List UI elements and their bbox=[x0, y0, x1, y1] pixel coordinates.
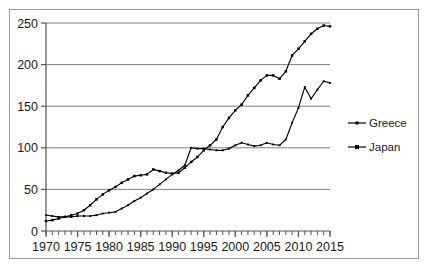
y-tick-label: 0 bbox=[31, 225, 38, 239]
data-point-japan bbox=[139, 174, 142, 177]
data-point-japan bbox=[51, 219, 54, 222]
data-point-greece bbox=[152, 188, 154, 190]
data-point-greece bbox=[146, 193, 148, 195]
data-point-japan bbox=[184, 167, 187, 170]
data-point-japan bbox=[329, 25, 332, 28]
data-point-japan bbox=[171, 172, 174, 175]
data-point-japan bbox=[285, 70, 288, 73]
data-point-japan bbox=[158, 170, 161, 173]
data-point-greece bbox=[209, 149, 211, 151]
data-point-greece bbox=[96, 214, 98, 216]
chart-canvas: 0501001502002501970197519801985199019952… bbox=[0, 0, 430, 279]
data-point-japan bbox=[146, 173, 149, 176]
legend-label-japan: Japan bbox=[369, 141, 400, 153]
data-point-greece bbox=[140, 197, 142, 199]
data-point-greece bbox=[323, 80, 325, 82]
data-point-japan bbox=[102, 193, 105, 196]
data-point-greece bbox=[165, 178, 167, 180]
data-point-greece bbox=[228, 148, 230, 150]
y-tick-label: 50 bbox=[24, 183, 38, 197]
data-point-greece bbox=[77, 215, 79, 217]
x-tick-label: 1975 bbox=[64, 240, 92, 254]
data-point-japan bbox=[83, 209, 86, 212]
y-tick-label: 150 bbox=[17, 100, 38, 114]
x-tick-label: 2005 bbox=[253, 240, 281, 254]
data-point-greece bbox=[234, 144, 236, 146]
data-point-greece bbox=[260, 144, 262, 146]
data-point-greece bbox=[215, 149, 217, 151]
data-point-japan bbox=[221, 126, 224, 129]
x-tick-label: 2015 bbox=[316, 240, 344, 254]
data-point-greece bbox=[114, 211, 116, 213]
data-point-greece bbox=[133, 200, 135, 202]
x-tick-label: 1980 bbox=[95, 240, 123, 254]
data-point-greece bbox=[178, 169, 180, 171]
data-point-greece bbox=[159, 183, 161, 185]
x-tick-label: 2000 bbox=[221, 240, 249, 254]
data-point-japan bbox=[64, 216, 67, 219]
data-point-japan bbox=[165, 172, 168, 175]
data-point-japan bbox=[297, 48, 300, 51]
data-point-greece bbox=[222, 149, 224, 151]
data-point-greece bbox=[83, 215, 85, 217]
series-line-greece bbox=[46, 81, 330, 217]
data-point-greece bbox=[297, 107, 299, 109]
line-chart: 0501001502002501970197519801985199019952… bbox=[0, 0, 430, 279]
data-point-japan bbox=[304, 40, 307, 43]
data-point-greece bbox=[102, 213, 104, 215]
data-point-greece bbox=[197, 148, 199, 150]
data-point-japan bbox=[228, 117, 231, 120]
data-point-japan bbox=[108, 189, 111, 192]
y-tick-label: 200 bbox=[17, 58, 38, 72]
data-point-japan bbox=[278, 77, 281, 80]
data-point-japan bbox=[45, 220, 48, 223]
chart-screenshot: 0501001502002501970197519801985199019952… bbox=[0, 0, 430, 279]
data-point-japan bbox=[114, 186, 117, 189]
data-point-greece bbox=[190, 147, 192, 149]
legend-label-greece: Greece bbox=[369, 117, 407, 129]
data-point-japan bbox=[291, 54, 294, 57]
y-tick-label: 250 bbox=[17, 17, 38, 31]
data-point-japan bbox=[203, 149, 206, 152]
data-point-japan bbox=[253, 87, 256, 90]
y-tick-label: 100 bbox=[17, 141, 38, 155]
data-point-japan bbox=[177, 172, 180, 175]
data-point-greece bbox=[279, 144, 281, 146]
data-point-greece bbox=[329, 82, 331, 84]
data-point-greece bbox=[247, 144, 249, 146]
data-point-greece bbox=[45, 214, 47, 216]
data-point-japan bbox=[322, 24, 325, 27]
data-point-japan bbox=[120, 181, 123, 184]
x-tick-label: 1995 bbox=[190, 240, 218, 254]
data-point-japan bbox=[70, 214, 73, 217]
data-point-greece bbox=[241, 142, 243, 144]
data-point-japan bbox=[133, 175, 136, 178]
data-point-greece bbox=[127, 204, 129, 206]
data-point-japan bbox=[310, 33, 313, 36]
data-point-japan bbox=[127, 178, 130, 181]
data-point-greece bbox=[253, 145, 255, 147]
data-point-greece bbox=[316, 89, 318, 91]
data-point-japan bbox=[316, 28, 319, 31]
data-point-japan bbox=[259, 79, 262, 82]
data-point-greece bbox=[310, 98, 312, 100]
data-point-greece bbox=[304, 86, 306, 88]
data-point-japan bbox=[57, 217, 60, 220]
data-point-greece bbox=[121, 208, 123, 210]
data-point-japan bbox=[247, 94, 250, 97]
x-tick-label: 2010 bbox=[285, 240, 313, 254]
data-point-greece bbox=[184, 164, 186, 166]
data-point-greece bbox=[285, 139, 287, 141]
data-point-japan bbox=[234, 109, 237, 112]
data-point-japan bbox=[190, 161, 193, 164]
data-point-japan bbox=[89, 204, 92, 207]
x-tick-label: 1970 bbox=[32, 240, 60, 254]
data-point-greece bbox=[89, 215, 91, 217]
data-point-japan bbox=[196, 156, 199, 159]
data-point-japan bbox=[272, 74, 275, 77]
legend-marker-japan bbox=[355, 145, 359, 149]
data-point-japan bbox=[215, 138, 218, 141]
x-tick-label: 1985 bbox=[127, 240, 155, 254]
data-point-japan bbox=[95, 198, 98, 201]
data-point-japan bbox=[240, 103, 243, 106]
